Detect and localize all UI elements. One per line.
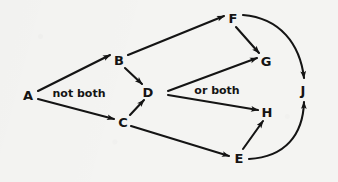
node-h: H [262,106,273,119]
edge-label-not-both: not both [53,88,106,99]
node-j: J [301,84,306,97]
edge-a-to-c [38,99,114,119]
node-e: E [235,152,244,165]
edge-b-to-f [128,16,224,55]
edge-e-to-h [243,121,263,149]
node-f: F [229,12,238,25]
edge-f-to-g [236,27,259,53]
node-b: B [114,54,124,67]
node-d: D [143,86,154,99]
diagram-edges [0,0,338,182]
node-a: A [23,89,33,102]
edge-b-to-d [125,68,142,84]
edge-fork-to-h [168,95,258,110]
node-g: G [261,55,272,68]
edge-c-to-d [130,100,144,115]
diagram-canvas: A B C D E F G H J not both or both [0,0,338,182]
node-c: C [118,116,128,129]
edge-label-or-both: or both [194,85,239,96]
edge-c-to-e [131,126,229,156]
